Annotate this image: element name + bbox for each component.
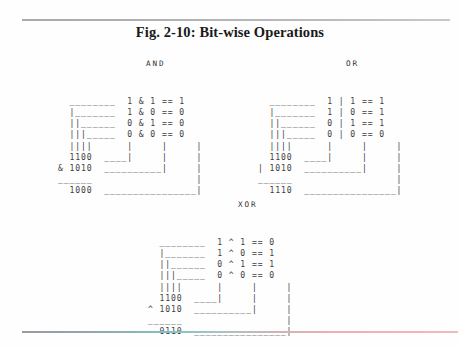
block-label-or: OR — [346, 59, 359, 68]
figure-page: Fig. 2-10: Bit-wise Operations AND _____… — [0, 0, 460, 348]
ascii-art-or: ________ 1 | 1 == 1 |_______ 1 | 0 == 1 … — [258, 96, 402, 196]
ascii-diagram-xor: ________ 1 ^ 1 == 0 |_______ 1 ^ 0 == 1 … — [148, 215, 292, 348]
ascii-diagram-or: ________ 1 | 1 == 1 |_______ 1 | 0 == 1 … — [258, 74, 402, 218]
ascii-art-xor: ________ 1 ^ 1 == 0 |_______ 1 ^ 0 == 1 … — [148, 237, 292, 337]
bottom-divider-rule — [22, 331, 458, 333]
block-label-xor: XOR — [238, 200, 257, 209]
ascii-art-and: ________ 1 & 1 == 1 |_______ 1 & 0 == 0 … — [58, 96, 202, 196]
page-title: Fig. 2-10: Bit-wise Operations — [0, 24, 460, 41]
ascii-diagram-and: ________ 1 & 1 == 1 |_______ 1 & 0 == 0 … — [58, 74, 202, 218]
block-label-and: AND — [146, 59, 165, 68]
top-divider-rule — [22, 19, 450, 21]
